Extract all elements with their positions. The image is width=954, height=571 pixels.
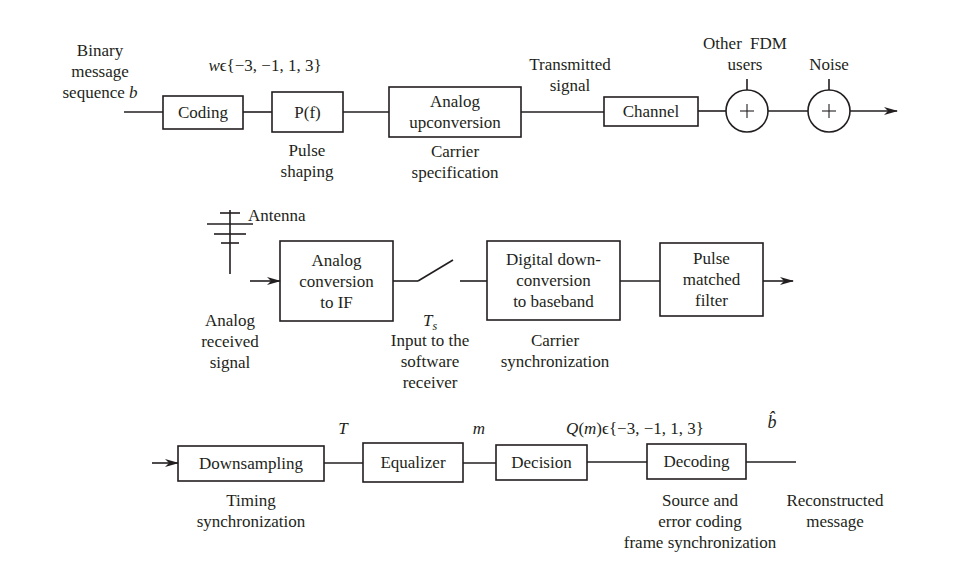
digital-downconversion-block: Digital down- conversion to baseband [487,241,620,320]
downsampling-block: Downsampling [178,446,324,481]
decision-block: Decision [496,445,587,480]
equalizer-block: Equalizer [363,443,463,482]
carrier-synchronization-caption: Carrier synchronization [490,330,620,372]
coding-block: Coding [163,96,243,129]
pulse-filter-block: P(f) [272,92,343,132]
pulse-shaping-caption: Pulse shaping [262,140,352,182]
input-symbol-b: b [129,83,138,102]
analog-conversion-if-block: Analog conversion to IF [280,241,393,321]
equalizer-output-m-label: m [468,418,490,439]
binary-message-label: Binary message sequence b [48,40,152,103]
software-receiver-input-label: Input to the software receiver [370,330,490,393]
period-t-label: T [333,418,353,439]
decoding-block: Decoding [647,444,746,479]
analog-received-signal-label: Analog received signal [185,310,275,373]
pulse-matched-filter-block: Pulse matched filter [660,243,763,316]
transmitted-signal-label: Transmitted signal [505,54,635,96]
output-b-hat-label: b̂ [762,412,782,433]
timing-synchronization-caption: Timing synchronization [176,490,326,532]
antenna-label: Antenna [248,205,328,226]
analog-upconversion-block: Analog upconversion [389,87,521,137]
alphabet-label: wwϵ{−3, −1, 1, 3}ϵ{−3, −1, 1, 3} [195,55,335,76]
carrier-specification-caption: Carrier specification [385,141,525,183]
decision-output-label: Q(m)ϵ{−3, −1, 1, 3}Q(m)ϵ{−3, −1, 1, 3} [535,418,735,439]
reconstructed-message-label: Reconstructed message [770,490,900,532]
channel-block: Channel [604,97,698,126]
sampling-switch [418,260,453,281]
noise-label: Noise [789,54,869,75]
antenna-icon [207,210,253,274]
